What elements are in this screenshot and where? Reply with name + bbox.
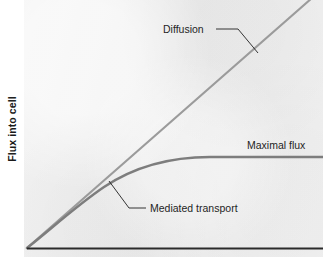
- mediated-transport-label: Mediated transport: [150, 202, 238, 214]
- mediated-transport-leader-line: [109, 181, 146, 208]
- diffusion-leader-line: [216, 29, 258, 53]
- y-axis-label: Flux into cell: [6, 96, 18, 162]
- flux-transport-chart: Diffusion Maximal flux Mediated transpor…: [0, 0, 323, 257]
- plot-area: Diffusion Maximal flux Mediated transpor…: [24, 0, 323, 257]
- chart-canvas: Diffusion Maximal flux Mediated transpor…: [24, 0, 323, 257]
- maximal-flux-label: Maximal flux: [247, 139, 306, 151]
- y-axis-label-area: Flux into cell: [0, 0, 24, 257]
- diffusion-label: Diffusion: [163, 23, 204, 35]
